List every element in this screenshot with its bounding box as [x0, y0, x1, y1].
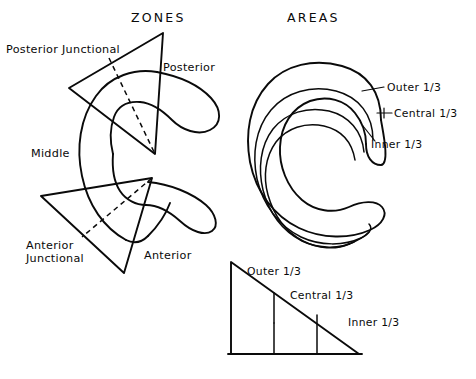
zones-outer-crescent-arc [79, 71, 157, 240]
wedge-cross-section-panel: Outer 1/3 Central 1/3 Inner 1/3 [228, 262, 399, 354]
zones-label-anterior-junctional-line1: Anterior [26, 239, 74, 252]
zones-panel: ZONES Posterior Junct [6, 10, 219, 273]
zones-inner-arc-upper [111, 102, 140, 154]
zones-posterior-horn [140, 72, 219, 132]
areas-title: AREAS [287, 10, 340, 25]
areas-divider-central-inner [260, 109, 364, 247]
zones-label-posterior-junctional: Posterior Junctional [6, 43, 120, 56]
zones-label-anterior: Anterior [144, 249, 192, 262]
wedge-label-central: Central 1/3 [290, 289, 353, 302]
zones-outer-crescent-arc-lower [126, 236, 148, 242]
wedge-label-inner: Inner 1/3 [348, 316, 399, 329]
meniscus-diagram-svg: ZONES Posterior Junct [0, 0, 476, 379]
figure-root: ZONES Posterior Junct [0, 0, 476, 379]
zones-title: ZONES [131, 10, 186, 25]
areas-label-inner: Inner 1/3 [371, 138, 422, 151]
zones-label-anterior-junctional-line2: Junctional [25, 252, 84, 265]
areas-label-outer: Outer 1/3 [387, 81, 441, 94]
wedge-label-outer: Outer 1/3 [247, 265, 301, 278]
zones-label-posterior: Posterior [163, 61, 215, 74]
areas-panel: AREAS Outer 1/3 Central 1/3 Inner 1/3 [248, 10, 457, 248]
zones-label-middle: Middle [31, 147, 70, 160]
areas-inner-boundary [265, 125, 355, 248]
areas-label-central: Central 1/3 [394, 107, 457, 120]
